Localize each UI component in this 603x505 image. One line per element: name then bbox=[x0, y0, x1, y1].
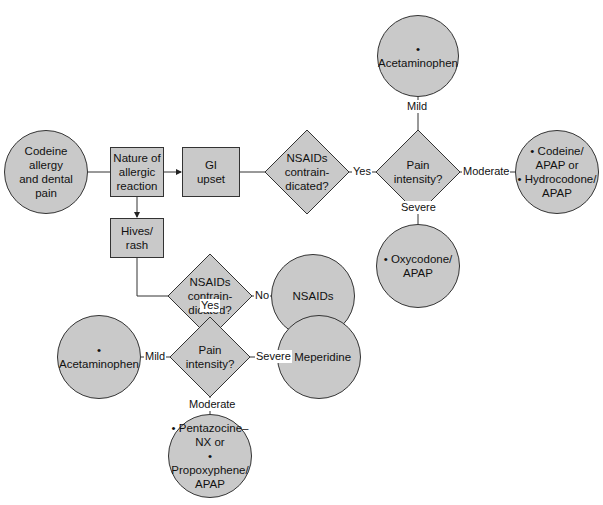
node-text-line: Codeine bbox=[19, 144, 73, 158]
node-text-line: Nature of bbox=[113, 151, 160, 165]
pain-intensity-text-1: Pain intensity? bbox=[383, 155, 453, 189]
node-text-line: • Codeine/ bbox=[518, 144, 597, 158]
node-text-line: NX or bbox=[169, 435, 251, 449]
hives-rash-box: Hives/ rash bbox=[110, 218, 164, 258]
edge-label-moderate-2: Moderate bbox=[188, 398, 236, 411]
codeine-allergy-start-node: Codeine allergy and dental pain bbox=[4, 130, 88, 214]
node-text-line: reaction bbox=[113, 179, 160, 193]
node-text-line: NSAIDs bbox=[293, 289, 334, 303]
node-text-line: • Meperidine bbox=[287, 350, 351, 364]
node-text-line: Pain bbox=[186, 343, 235, 357]
pentazocine-propoxyphene-node: • Pentazocine– NX or • Propoxyphene/ APA… bbox=[168, 414, 252, 498]
node-text-line: GI bbox=[197, 158, 225, 172]
node-text-line: APAP or bbox=[518, 158, 597, 172]
nature-of-reaction-box: Nature of allergic reaction bbox=[110, 147, 164, 197]
node-text-line: pain bbox=[19, 186, 73, 200]
node-text-line: NSAIDs bbox=[188, 275, 233, 289]
node-text-line: Pain bbox=[394, 158, 443, 172]
codeine-hydrocodone-node: • Codeine/ APAP or • Hydrocodone/ APAP bbox=[515, 130, 599, 214]
node-text-line: • Acetaminophen bbox=[58, 343, 140, 371]
node-text-line: APAP bbox=[384, 266, 453, 280]
node-text-line: contrain- bbox=[285, 165, 330, 179]
acetaminophen-top-node: • Acetaminophen bbox=[377, 15, 459, 97]
node-text-line: rash bbox=[121, 238, 153, 252]
edge-label-mild-2: Mild bbox=[144, 350, 166, 363]
node-text-line: and dental bbox=[19, 172, 73, 186]
edge-label-no-2: No bbox=[254, 289, 270, 302]
node-text-line: • Acetaminophen bbox=[378, 42, 458, 70]
node-text-line: • Hydrocodone/ bbox=[518, 172, 597, 186]
node-text-line: APAP bbox=[169, 477, 251, 491]
edge-label-severe-1: Severe bbox=[400, 201, 437, 214]
edge-label-mild-1: Mild bbox=[406, 100, 428, 113]
edge-label-yes-2: Yes bbox=[200, 299, 220, 312]
edge-label-moderate-1: Moderate bbox=[462, 165, 510, 178]
node-text-line: upset bbox=[197, 172, 225, 186]
node-text-line: allergic bbox=[113, 165, 160, 179]
node-text-line: • Pentazocine– bbox=[169, 421, 251, 435]
gi-upset-box: GI upset bbox=[182, 147, 240, 197]
node-text-line: • Propoxyphene/ bbox=[169, 449, 251, 477]
node-text-line: allergy bbox=[19, 158, 73, 172]
node-text-line: APAP bbox=[518, 186, 597, 200]
node-text-line: dicated? bbox=[285, 179, 330, 193]
edge-label-yes-1: Yes bbox=[352, 165, 372, 178]
node-text-line: Hives/ bbox=[121, 224, 153, 238]
edge-label-severe-2: Severe bbox=[255, 350, 292, 363]
node-text-line: • Oxycodone/ bbox=[384, 252, 453, 266]
connectors-layer bbox=[0, 0, 603, 505]
oxycodone-node: • Oxycodone/ APAP bbox=[376, 224, 460, 308]
node-text-line: intensity? bbox=[186, 357, 235, 371]
nsaids-contraindicated-text-1: NSAIDs contrain- dicated? bbox=[277, 150, 337, 194]
node-text-line: NSAIDs bbox=[285, 151, 330, 165]
node-text-line: intensity? bbox=[394, 172, 443, 186]
acetaminophen-bottom-node: • Acetaminophen bbox=[57, 315, 141, 399]
pain-intensity-text-2: Pain intensity? bbox=[175, 340, 245, 374]
